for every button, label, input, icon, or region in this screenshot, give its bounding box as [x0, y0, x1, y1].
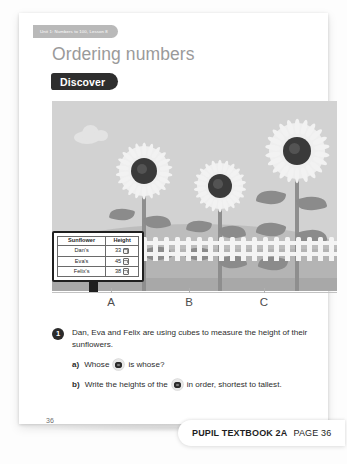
cell-height-value: 38 — [115, 269, 121, 275]
sunflower-icon — [113, 359, 124, 370]
part-b-text-after: in order, shortest to tallest. — [187, 380, 282, 389]
leaf-c-2 — [296, 193, 328, 215]
question-block: 1 Dan, Eva and Felix are using cubes to … — [52, 327, 332, 390]
petal — [295, 168, 300, 183]
section-badge-discover: Discover — [51, 73, 118, 90]
cell-name: Eva's — [58, 256, 106, 266]
table-header-row: Sunflower Height — [58, 237, 139, 246]
flower-head-c — [269, 123, 325, 179]
tick-a — [111, 288, 112, 293]
petal — [115, 165, 128, 171]
cell-height: 38 — [106, 266, 139, 276]
sunflower-plant-c — [265, 123, 329, 291]
petal — [295, 119, 300, 134]
part-b-label: b) — [72, 380, 80, 389]
cube-icon — [123, 248, 130, 255]
tick-c — [264, 288, 265, 293]
baseline-rule — [52, 292, 337, 293]
plant-label-c: C — [254, 296, 274, 308]
footer-pill: PUPIL TEXTBOOK 2A PAGE 36 — [178, 420, 345, 446]
question-stem: Dan, Eva and Felix are using cubes to me… — [72, 327, 332, 350]
sunflower-icon — [172, 379, 183, 390]
cube-icon — [123, 268, 130, 275]
part-a-text: Whose is whose? — [84, 359, 164, 370]
leaf-a-2 — [143, 212, 172, 232]
footer-book-title: PUPIL TEXTBOOK 2A — [192, 428, 287, 438]
question-part-a: a) Whose is whose? — [72, 359, 332, 370]
sunflower-plant-b — [192, 163, 248, 291]
unit-tag: Unit 1: Numbers to 100, Lesson 8 — [33, 25, 118, 38]
textbook-page: Unit 1: Numbers to 100, Lesson 8 Orderin… — [19, 13, 328, 424]
sunflower-height-table-bubble: Sunflower Height Dan's 33 — [52, 231, 144, 282]
plant-label-a: A — [101, 296, 121, 308]
cell-height-value: 33 — [115, 248, 121, 254]
unit-tag-label: Unit 1: Numbers to 100, Lesson 8 — [40, 29, 108, 34]
page-number: 36 — [46, 417, 54, 424]
cell-name: Dan's — [58, 246, 106, 256]
plant-label-b: B — [179, 296, 199, 308]
petal — [218, 160, 222, 172]
part-a-label: a) — [72, 360, 79, 369]
cell-height: 45 — [106, 256, 139, 266]
petal — [314, 144, 329, 151]
cell-height-value: 45 — [115, 259, 121, 265]
column-header-height: Height — [106, 237, 139, 246]
part-a-text-before: Whose — [84, 360, 109, 369]
part-b-text: Write the heights of the in order, short… — [85, 379, 282, 390]
petal — [218, 200, 222, 212]
page-title: Ordering numbers — [52, 44, 195, 65]
flower-head-b — [197, 163, 243, 209]
table-row: Eva's 45 — [58, 256, 139, 266]
question-1: 1 Dan, Eva and Felix are using cubes to … — [52, 327, 332, 350]
petal — [142, 143, 146, 156]
tick-b — [189, 288, 190, 293]
section-badge-label: Discover — [60, 76, 105, 88]
column-header-sunflower: Sunflower — [58, 237, 106, 246]
screenshot-root: Unit 1: Numbers to 100, Lesson 8 Orderin… — [0, 0, 347, 464]
table-row: Felix's 38 — [58, 266, 139, 276]
cube-icon — [123, 258, 130, 265]
petal — [234, 180, 246, 186]
cell-height: 33 — [106, 246, 139, 256]
footer-page-label: PAGE 36 — [293, 428, 331, 438]
petal — [159, 165, 172, 171]
question-part-b: b) Write the heights of the in order, sh… — [72, 379, 332, 390]
table-row: Dan's 33 — [58, 246, 139, 256]
sunflower-height-table: Sunflower Height Dan's 33 — [57, 236, 139, 277]
flower-head-a — [119, 146, 169, 196]
part-b-text-before: Write the heights of the — [85, 380, 168, 389]
question-number-badge: 1 — [52, 328, 64, 340]
part-a-text-after: is whose? — [128, 360, 164, 369]
cell-name: Felix's — [58, 266, 106, 276]
